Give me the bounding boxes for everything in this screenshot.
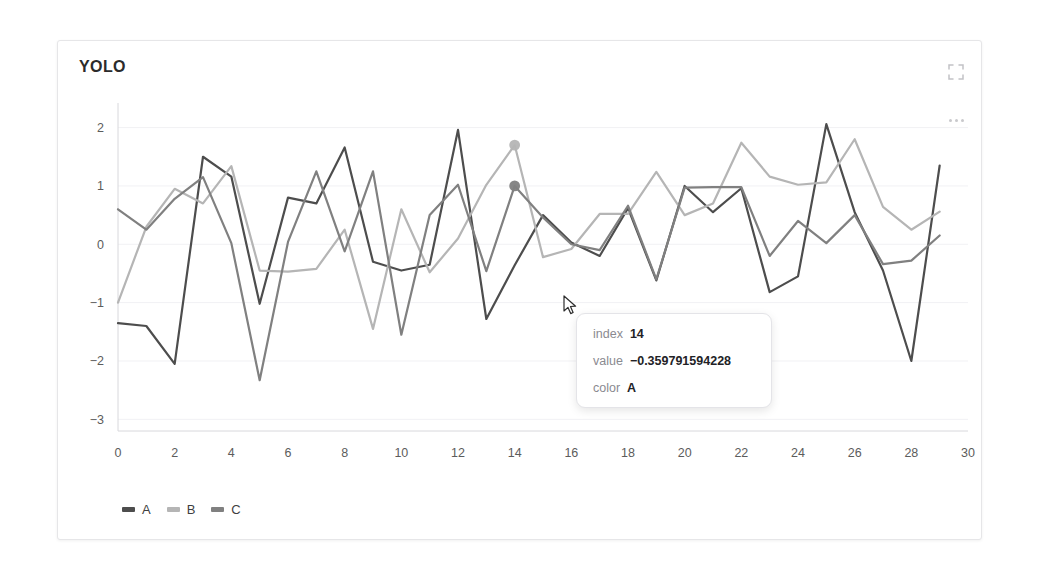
x-axis-tick-label: 14 xyxy=(508,446,522,460)
x-axis-tick-label: 16 xyxy=(564,446,578,460)
x-axis-tick-label: 28 xyxy=(904,446,918,460)
tooltip-value: 14 xyxy=(630,327,644,341)
x-axis-tick-label: 22 xyxy=(734,446,748,460)
legend-swatch-icon xyxy=(122,507,135,512)
tooltip-row: color A xyxy=(593,381,755,395)
y-axis-tick-label: 0 xyxy=(97,238,104,252)
legend-item-A[interactable]: A xyxy=(122,502,151,517)
x-axis-tick-label: 18 xyxy=(621,446,635,460)
chart-card: YOLO 210−1−2−3 0246810121416182022242628… xyxy=(57,40,982,540)
tooltip-key: index xyxy=(593,327,623,341)
x-axis-tick-label: 24 xyxy=(791,446,805,460)
y-axis-tick-label: −3 xyxy=(90,413,104,427)
data-series-group[interactable] xyxy=(118,124,940,380)
legend-item-C[interactable]: C xyxy=(211,502,240,517)
legend[interactable]: ABC xyxy=(122,502,241,517)
x-axis-tick-label: 26 xyxy=(848,446,862,460)
legend-item-B[interactable]: B xyxy=(167,502,196,517)
legend-swatch-icon xyxy=(211,507,224,512)
x-axis-tick-label: 10 xyxy=(394,446,408,460)
tooltip-row: index 14 xyxy=(593,327,755,341)
x-axis-tick-label: 20 xyxy=(678,446,692,460)
y-axis-tick-label: −2 xyxy=(90,354,104,368)
tooltip-row: value −0.359791594228 xyxy=(593,354,755,368)
x-axis-tick-label: 6 xyxy=(285,446,292,460)
x-axis-tick-label: 2 xyxy=(171,446,178,460)
legend-swatch-icon xyxy=(167,507,180,512)
x-axis-tick-label: 12 xyxy=(451,446,465,460)
tooltip-key: value xyxy=(593,354,623,368)
y-axis-tick-label: 1 xyxy=(97,179,104,193)
x-axis-tick-label: 8 xyxy=(341,446,348,460)
legend-label: C xyxy=(231,502,240,517)
highlight-points-group xyxy=(509,140,520,192)
gridlines xyxy=(118,103,968,431)
x-axis-tick-label: 30 xyxy=(961,446,975,460)
legend-label: B xyxy=(187,502,196,517)
y-axis-tick-label: 2 xyxy=(97,121,104,135)
tooltip: index 14 value −0.359791594228 color A xyxy=(576,313,772,408)
tooltip-key: color xyxy=(593,381,620,395)
plot-area[interactable]: 210−1−2−3 024681012141618202224262830 xyxy=(58,41,983,541)
x-axis-tick-label: 4 xyxy=(228,446,235,460)
y-axis-tick-label: −1 xyxy=(90,296,104,310)
legend-label: A xyxy=(142,502,151,517)
highlight-point-B xyxy=(509,140,520,151)
highlight-point-C xyxy=(509,181,520,192)
tooltip-value: −0.359791594228 xyxy=(630,354,731,368)
x-axis-tick-labels: 024681012141618202224262830 xyxy=(115,446,975,460)
line-chart-svg[interactable]: 210−1−2−3 024681012141618202224262830 xyxy=(58,41,983,541)
x-axis-tick-label: 0 xyxy=(115,446,122,460)
tooltip-value: A xyxy=(627,381,636,395)
y-axis-tick-labels: 210−1−2−3 xyxy=(90,121,104,427)
